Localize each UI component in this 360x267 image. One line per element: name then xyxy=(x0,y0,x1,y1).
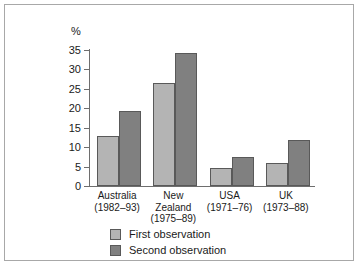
x-axis-line xyxy=(89,186,315,187)
bar-group xyxy=(266,50,310,186)
bar-group xyxy=(97,50,141,186)
chart-legend: First observationSecond observation xyxy=(110,226,226,258)
legend-item: Second observation xyxy=(110,242,226,258)
y-axis-tick-label: 25 xyxy=(69,83,81,95)
y-axis-tick-mark xyxy=(84,108,89,109)
bar xyxy=(97,136,119,186)
y-axis-tick-label: 5 xyxy=(75,161,81,173)
y-axis-tick-label: 15 xyxy=(69,122,81,134)
legend-item-label: Second observation xyxy=(129,244,226,256)
x-axis-category-label: UK (1973–88) xyxy=(250,190,322,213)
y-axis-tick-mark xyxy=(84,186,89,187)
legend-item: First observation xyxy=(110,226,226,242)
bar xyxy=(119,111,141,186)
chart-figure-frame: % 05101520253035 Australia (1982–93)New … xyxy=(4,4,354,261)
y-axis-tick-label: 35 xyxy=(69,44,81,56)
y-axis-tick-label: 20 xyxy=(69,102,81,114)
y-axis-tick-mark xyxy=(84,69,89,70)
y-axis-tick-mark xyxy=(84,128,89,129)
bar-group xyxy=(153,50,197,186)
y-axis-unit-label: % xyxy=(71,25,81,37)
y-axis-tick-mark xyxy=(84,89,89,90)
bar xyxy=(232,157,254,186)
y-axis-tick-mark xyxy=(84,167,89,168)
bar-group xyxy=(210,50,254,186)
legend-item-label: First observation xyxy=(129,228,210,240)
legend-swatch-icon xyxy=(110,229,121,240)
plot-area: 05101520253035 xyxy=(89,50,314,186)
y-axis-tick-label: 30 xyxy=(69,63,81,75)
y-axis-tick-mark xyxy=(84,147,89,148)
bar xyxy=(175,53,197,186)
y-axis-tick-label: 10 xyxy=(69,141,81,153)
legend-swatch-icon xyxy=(110,245,121,256)
bar xyxy=(266,163,288,186)
bar xyxy=(288,140,310,186)
bar xyxy=(210,168,232,186)
y-axis-tick-mark xyxy=(84,50,89,51)
bar xyxy=(153,83,175,186)
